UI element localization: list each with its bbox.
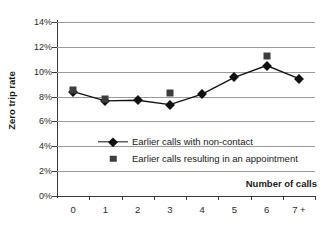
y-axis-tick-labels: 0%2%4%6%8%10%12%14% bbox=[20, 0, 52, 235]
x-axis-tick-mark bbox=[218, 196, 219, 200]
x-axis-tick-mark bbox=[251, 196, 252, 200]
y-axis-title: Zero trip rate bbox=[0, 0, 22, 200]
legend-marker-square-icon bbox=[96, 152, 132, 166]
data-point-square bbox=[166, 89, 173, 96]
y-axis-title-text: Zero trip rate bbox=[6, 71, 17, 130]
x-axis-tick-mark bbox=[315, 196, 316, 200]
y-axis-tick-label: 10% bbox=[24, 67, 52, 76]
x-axis-tick-mark bbox=[186, 196, 187, 200]
x-axis-tick-mark bbox=[283, 196, 284, 200]
y-axis-tick-mark bbox=[52, 97, 57, 98]
y-axis-tick-mark bbox=[52, 47, 57, 48]
y-axis-tick-label: 12% bbox=[24, 42, 52, 51]
legend-entry-non-contact: Earlier calls with non-contact bbox=[96, 133, 311, 150]
y-axis-tick-label: 4% bbox=[24, 142, 52, 151]
chart-legend: Earlier calls with non-contact Earlier c… bbox=[96, 133, 311, 167]
plot-area bbox=[57, 22, 315, 196]
x-axis-tick-mark bbox=[89, 196, 90, 200]
legend-entry-appointment: Earlier calls resulting in an appointmen… bbox=[96, 150, 311, 167]
y-axis-tick-label: 8% bbox=[24, 92, 52, 101]
chart-figure: Zero trip rate 0%2%4%6%8%10%12%14% 01234… bbox=[0, 0, 325, 235]
y-axis-tick-label: 6% bbox=[24, 117, 52, 126]
x-axis-tick-mark bbox=[154, 196, 155, 200]
legend-label-non-contact: Earlier calls with non-contact bbox=[132, 136, 253, 147]
x-axis-tick-mark bbox=[122, 196, 123, 200]
y-axis-tick-mark bbox=[52, 22, 57, 23]
legend-label-appointment: Earlier calls resulting in an appointmen… bbox=[132, 153, 298, 164]
y-axis-tick-mark bbox=[52, 146, 57, 147]
data-point-square bbox=[70, 87, 77, 94]
legend-marker-diamond-icon bbox=[96, 135, 132, 149]
y-axis-tick-mark bbox=[52, 171, 57, 172]
data-point-square bbox=[102, 96, 109, 103]
series-line-non-contact bbox=[57, 22, 315, 196]
y-axis-tick-mark bbox=[52, 72, 57, 73]
data-point-square bbox=[263, 52, 270, 59]
y-axis-tick-label: 14% bbox=[24, 18, 52, 27]
y-axis-tick-mark bbox=[52, 196, 57, 197]
y-axis-tick-label: 2% bbox=[24, 167, 52, 176]
y-axis-tick-mark bbox=[52, 121, 57, 122]
x-axis-tick-label: 7 + bbox=[279, 205, 319, 215]
y-axis-tick-label: 0% bbox=[24, 192, 52, 201]
x-axis-title: Number of calls bbox=[246, 178, 317, 189]
